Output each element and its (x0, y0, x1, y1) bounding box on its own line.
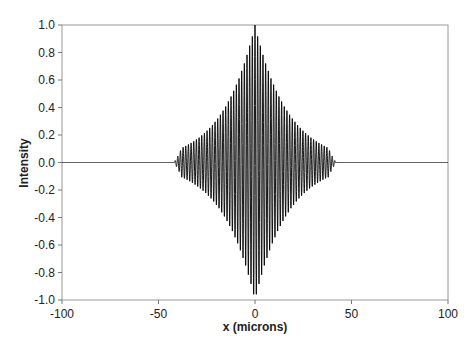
x-tick-label: 0 (252, 307, 259, 321)
y-tick-label: 0.2 (38, 128, 55, 142)
x-tick-label: 50 (345, 307, 359, 321)
x-axis-label: x (microns) (223, 320, 288, 334)
y-tick-label: -1.0 (34, 293, 55, 307)
y-tick-label: 0.0 (38, 156, 55, 170)
y-axis-label: Intensity (17, 138, 31, 188)
y-tick-label: -0.8 (34, 266, 55, 280)
y-tick-label: 0.6 (38, 73, 55, 87)
x-tick-label: 100 (438, 307, 458, 321)
x-tick-label: -100 (50, 307, 74, 321)
x-axis-ticks: -100-50050100 (50, 300, 458, 321)
y-tick-label: -0.4 (34, 211, 55, 225)
y-tick-label: -0.6 (34, 238, 55, 252)
y-tick-label: 0.4 (38, 101, 55, 115)
y-tick-label: -0.2 (34, 183, 55, 197)
y-tick-label: 1.0 (38, 18, 55, 32)
intensity-chart: 1.00.80.60.40.20.0-0.2-0.4-0.6-0.8-1.0 -… (0, 0, 474, 353)
y-axis-ticks: 1.00.80.60.40.20.0-0.2-0.4-0.6-0.8-1.0 (34, 18, 62, 307)
x-tick-label: -50 (150, 307, 168, 321)
y-tick-label: 0.8 (38, 46, 55, 60)
